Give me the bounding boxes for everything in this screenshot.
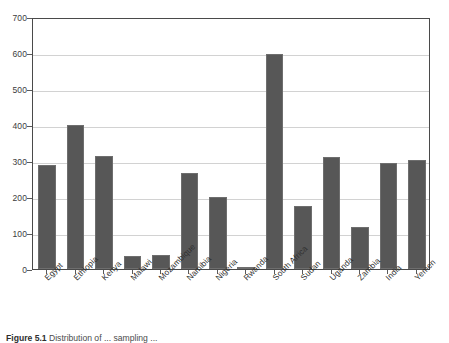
y-axis-tick-label: 700 xyxy=(0,14,27,23)
gridline xyxy=(33,235,429,236)
y-axis-tick-label: 500 xyxy=(0,86,27,95)
bar-india xyxy=(380,163,398,269)
figure-caption-label: Figure 5.1 xyxy=(6,333,47,343)
y-axis-tick-label: 100 xyxy=(0,230,27,239)
gridline xyxy=(33,199,429,200)
y-axis-tick-mark xyxy=(27,270,32,271)
y-axis-tick-mark xyxy=(27,162,32,163)
bar-uganda xyxy=(323,157,341,269)
y-axis-tick-label: 300 xyxy=(0,158,27,167)
bar-ethiopia xyxy=(67,125,85,269)
gridline xyxy=(33,55,429,56)
y-axis-tick-label: 600 xyxy=(0,50,27,59)
y-axis-tick-label: 200 xyxy=(0,194,27,203)
gridline xyxy=(33,127,429,128)
y-axis-tick-mark xyxy=(27,90,32,91)
y-axis-tick-label: 0 xyxy=(0,266,27,275)
gridline xyxy=(33,91,429,92)
bar-kenya xyxy=(95,156,113,269)
y-axis-tick-mark xyxy=(27,54,32,55)
figure-caption-text: Distribution of ... sampling ... xyxy=(49,333,157,343)
figure-caption: Figure 5.1 Distribution of ... sampling … xyxy=(6,333,436,343)
y-axis-tick-mark xyxy=(27,234,32,235)
y-axis-tick-label: 400 xyxy=(0,122,27,131)
gridline xyxy=(33,163,429,164)
bar-south-africa xyxy=(266,54,284,269)
y-axis-tick-mark xyxy=(27,18,32,19)
bar-egypt xyxy=(38,165,56,269)
y-axis-tick-mark xyxy=(27,198,32,199)
bar-yemen xyxy=(408,160,426,269)
plot-area xyxy=(32,18,430,270)
y-axis-tick-mark xyxy=(27,126,32,127)
